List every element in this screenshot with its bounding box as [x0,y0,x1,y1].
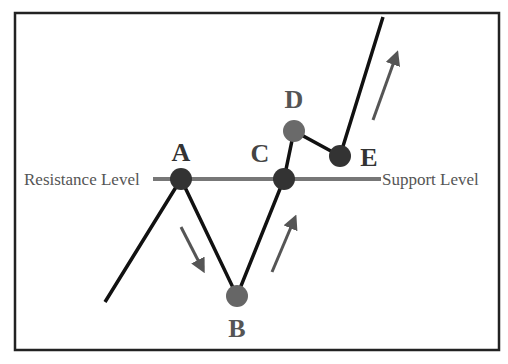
point-a-label: A [172,138,191,167]
point-b-marker [226,285,248,307]
point-b-label: B [228,314,245,343]
resistance-level-label: Resistance Level [24,170,140,189]
support-level-label: Support Level [382,170,479,189]
diagram-canvas: A B C D E Resistance Level Support Level [0,0,508,364]
point-e-label: E [360,143,377,172]
point-d-label: D [285,85,304,114]
point-e-marker [329,145,351,167]
point-a-marker [170,168,192,190]
point-c-label: C [251,139,270,168]
point-d-marker [283,120,305,142]
point-c-marker [273,168,295,190]
